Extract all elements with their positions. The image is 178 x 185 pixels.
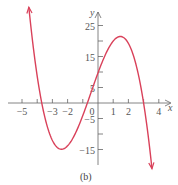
y-tick-label: −5 bbox=[84, 114, 95, 125]
x-tick-label: −5 bbox=[17, 106, 28, 117]
x-axis-label: x bbox=[167, 102, 173, 113]
y-tick-label: −15 bbox=[79, 145, 95, 156]
x-tick-label: 1 bbox=[111, 106, 116, 117]
x-tick-label: −3 bbox=[47, 106, 58, 117]
y-tick-label: 15 bbox=[85, 52, 95, 63]
y-tick-label: 25 bbox=[85, 21, 95, 32]
x-tick-label: 2 bbox=[126, 106, 131, 117]
figure-caption: (b) bbox=[80, 171, 92, 183]
chart: −5−3−2012425155−5−15 x y (b) bbox=[0, 0, 178, 185]
x-tick-label: 4 bbox=[156, 106, 161, 117]
y-axis-label: y bbox=[89, 7, 95, 18]
x-tick-label: −2 bbox=[62, 106, 73, 117]
